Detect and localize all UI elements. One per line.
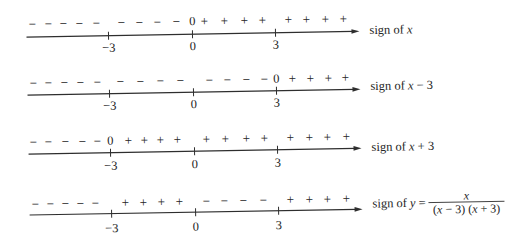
plus-sign: +	[324, 129, 332, 144]
minus-sign: −	[45, 134, 53, 149]
label-prefix: sign of	[371, 139, 409, 154]
tick-label: 3	[275, 156, 281, 170]
plus-sign: +	[174, 132, 182, 147]
plus-sign: +	[141, 132, 149, 147]
minus-sign: −	[94, 133, 102, 148]
minus-sign: −	[92, 15, 100, 30]
minus-sign: −	[44, 16, 52, 31]
sign-row-y: −−−−−++++−−−−++++−303sign of y =x(x − 3)…	[29, 188, 505, 237]
plus-sign: +	[122, 195, 130, 210]
minus-sign: −	[223, 72, 231, 87]
minus-sign: −	[62, 196, 70, 211]
minus-sign: −	[77, 196, 85, 211]
plus-sign: +	[339, 11, 347, 26]
plus-sign: +	[220, 13, 228, 28]
plus-sign: +	[321, 11, 329, 26]
minus-sign: −	[203, 193, 211, 208]
plus-sign: +	[200, 13, 208, 28]
plus-sign: +	[302, 12, 310, 27]
minus-sign: −	[137, 74, 145, 89]
minus-sign: −	[32, 196, 40, 211]
zero-marker: 0	[273, 72, 279, 86]
plus-sign: +	[176, 194, 184, 209]
minus-sign: −	[221, 193, 229, 208]
minus-sign: −	[117, 15, 125, 30]
plus-sign: +	[324, 70, 332, 85]
tick-label: 0	[190, 97, 196, 111]
minus-sign: −	[260, 192, 268, 207]
label-prefix: sign of	[369, 22, 407, 37]
fraction-denominator: (x − 3) (x + 3)	[433, 201, 500, 216]
denominator-text: + 3)	[477, 201, 500, 215]
minus-sign: −	[62, 134, 70, 149]
minus-sign: −	[45, 75, 53, 90]
plus-sign: +	[140, 195, 148, 210]
plus-sign: +	[287, 192, 295, 207]
plus-sign: +	[306, 192, 314, 207]
minus-sign: −	[59, 16, 67, 31]
minus-sign: −	[79, 134, 87, 149]
minus-sign: −	[75, 16, 83, 31]
zero-marker: 0	[189, 14, 195, 28]
sign-row-x-minus-3: −−−−−−−−−−−−−0++++−303sign of x − 3	[27, 69, 433, 115]
tick-label: −3	[105, 221, 119, 235]
minus-sign: −	[205, 72, 213, 87]
minus-sign: −	[77, 75, 85, 90]
number-line	[28, 89, 355, 95]
tick-label: 0	[193, 220, 199, 234]
minus-sign: −	[135, 15, 143, 30]
minus-sign: −	[242, 72, 250, 87]
sign-chart-rows: −−−−−−−−−0++++++++−303sign of x−−−−−−−−−…	[26, 8, 505, 236]
plus-sign: +	[288, 71, 296, 86]
row-label: sign of x + 3	[371, 139, 434, 154]
plus-sign: +	[341, 70, 349, 85]
plus-sign: +	[240, 13, 248, 28]
plus-sign: +	[306, 71, 314, 86]
number-line	[29, 148, 356, 154]
plus-sign: +	[342, 129, 350, 144]
fraction-numerator: x	[463, 188, 470, 202]
minus-sign: −	[47, 196, 55, 211]
tick-label: −3	[104, 159, 118, 173]
minus-sign: −	[30, 134, 38, 149]
minus-sign: −	[94, 74, 102, 89]
number-line	[27, 31, 354, 37]
arrow-right-icon	[352, 87, 360, 92]
label-suffix: =	[415, 196, 425, 210]
minus-sign: −	[61, 75, 69, 90]
plus-sign: +	[306, 130, 314, 145]
row-label: sign of x	[369, 22, 413, 37]
plus-sign: +	[258, 12, 266, 27]
plus-sign: +	[284, 12, 292, 27]
arrow-right-icon	[355, 207, 363, 212]
row-label: sign of x − 3	[370, 78, 433, 93]
plus-sign: +	[158, 194, 166, 209]
minus-sign: −	[176, 73, 184, 88]
minus-sign: −	[260, 71, 268, 86]
sign-chart-figure: −−−−−−−−−0++++++++−303sign of x−−−−−−−−−…	[0, 0, 525, 241]
minus-sign: −	[153, 14, 161, 29]
tick-label: 0	[189, 39, 195, 53]
zero-marker: 0	[107, 134, 113, 148]
minus-sign: −	[172, 14, 180, 29]
label-suffix: + 3	[414, 139, 434, 153]
label-suffix: − 3	[413, 78, 433, 92]
arrow-right-icon	[351, 29, 359, 34]
plus-sign: +	[261, 130, 269, 145]
tick-label: 3	[272, 38, 278, 52]
minus-sign: −	[156, 73, 164, 88]
minus-sign: −	[30, 75, 38, 90]
arrow-right-icon	[353, 146, 361, 151]
plus-sign: +	[157, 132, 165, 147]
tick-label: 3	[273, 96, 279, 110]
plus-sign: +	[222, 131, 230, 146]
tick-label: 3	[276, 218, 282, 232]
row-label: sign of y =	[372, 196, 425, 211]
plus-sign: +	[287, 130, 295, 145]
minus-sign: −	[117, 74, 125, 89]
sign-row-x: −−−−−−−−−0++++++++−303sign of x	[26, 10, 413, 56]
fraction: x(x − 3) (x + 3)	[428, 188, 504, 217]
tick-label: −3	[102, 41, 116, 55]
sign-row-x-plus-3: −−−−−0++++++++++++−303sign of x + 3	[28, 128, 434, 175]
plus-sign: +	[125, 133, 133, 148]
